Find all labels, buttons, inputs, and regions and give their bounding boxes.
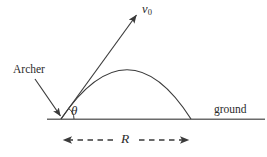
archer-pointer-line [35,79,61,116]
ground-label: ground [214,104,247,116]
archer-label: Archer [13,64,45,76]
projectile-motion-diagram: Archer ground v0 θ R [0,0,267,157]
initial-velocity-subscript: 0 [148,7,152,17]
diagram-canvas [0,0,267,157]
initial-velocity-label: v0 [142,3,152,16]
range-label: R [121,132,129,146]
trajectory-parabola [61,70,191,119]
initial-velocity-symbol: v [142,2,148,16]
launch-angle-label: θ [71,104,77,117]
